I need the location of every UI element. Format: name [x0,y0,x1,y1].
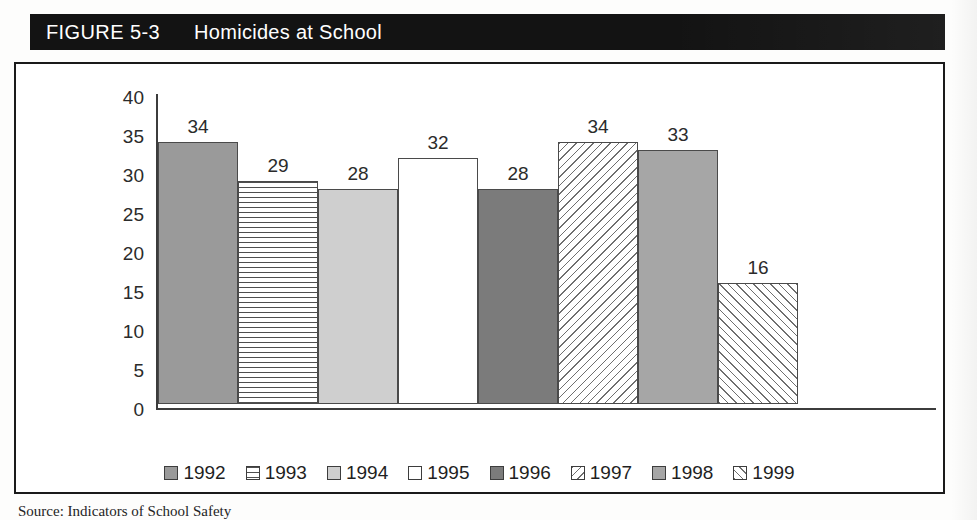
legend-item-1996[interactable]: 1996 [490,462,551,484]
bar-column[interactable]: 16 [718,90,798,404]
bar-value-label: 28 [319,163,397,185]
chart-frame: 4035302520151050 3429283228343316 199219… [14,62,945,494]
y-axis-tick: 5 [133,360,144,382]
bar[interactable]: 34 [158,142,238,404]
y-axis-labels: 4035302520151050 [112,96,152,408]
legend-item-1995[interactable]: 1995 [408,462,469,484]
legend-label: 1996 [509,462,551,484]
legend-swatch-icon [164,466,178,480]
bar-value-label: 32 [399,132,477,154]
legend-swatch-icon [490,466,504,480]
legend-label: 1995 [427,462,469,484]
legend-item-1994[interactable]: 1994 [327,462,388,484]
plot-area: 4035302520151050 3429283228343316 199219… [16,64,943,492]
legend-label: 1997 [590,462,632,484]
figure-title-banner: FIGURE 5-3 Homicides at School [30,14,945,50]
y-axis-tick: 40 [123,87,144,109]
bar[interactable]: 28 [478,189,558,404]
bar-column[interactable]: 29 [238,90,318,404]
legend-swatch-icon [652,466,666,480]
y-axis-tick: 10 [123,321,144,343]
legend-swatch-icon [571,466,585,480]
bar-value-label: 29 [239,155,317,177]
y-axis-tick: 20 [123,243,144,265]
legend-label: 1999 [752,462,794,484]
legend-swatch-icon [327,466,341,480]
legend-item-1992[interactable]: 1992 [164,462,225,484]
legend-item-1999[interactable]: 1999 [733,462,794,484]
legend-label: 1994 [346,462,388,484]
bar-column[interactable]: 34 [158,90,238,404]
figure-title: Homicides at School [160,21,382,44]
legend-label: 1993 [265,462,307,484]
bar-value-label: 33 [639,124,717,146]
legend-label: 1992 [183,462,225,484]
y-axis-tick: 0 [133,399,144,421]
bar[interactable]: 16 [718,283,798,404]
bar-series: 3429283228343316 [158,90,798,404]
y-axis-tick: 15 [123,282,144,304]
legend-swatch-icon [408,466,422,480]
bar-column[interactable]: 32 [398,90,478,404]
legend-item-1997[interactable]: 1997 [571,462,632,484]
bar-value-label: 34 [159,116,237,138]
bar-column[interactable]: 34 [558,90,638,404]
bar[interactable]: 29 [238,181,318,404]
bar[interactable]: 32 [398,158,478,404]
x-axis-baseline [156,408,936,410]
y-axis-tick: 35 [123,126,144,148]
bar-column[interactable]: 33 [638,90,718,404]
source-note: Source: Indicators of School Safety [18,503,231,520]
legend-item-1993[interactable]: 1993 [246,462,307,484]
bar-value-label: 28 [479,163,557,185]
bar-column[interactable]: 28 [478,90,558,404]
y-axis-tick: 30 [123,165,144,187]
bar[interactable]: 28 [318,189,398,404]
figure-number: FIGURE 5-3 [30,21,160,44]
bar-value-label: 16 [719,257,797,279]
legend-swatch-icon [246,466,260,480]
chart-legend: 19921993199419951996199719981999 [16,462,943,484]
bar-column[interactable]: 28 [318,90,398,404]
bar-value-label: 34 [559,116,637,138]
bar[interactable]: 34 [558,142,638,404]
legend-swatch-icon [733,466,747,480]
y-axis-tick: 25 [123,204,144,226]
legend-label: 1998 [671,462,713,484]
bar[interactable]: 33 [638,150,718,404]
legend-item-1998[interactable]: 1998 [652,462,713,484]
